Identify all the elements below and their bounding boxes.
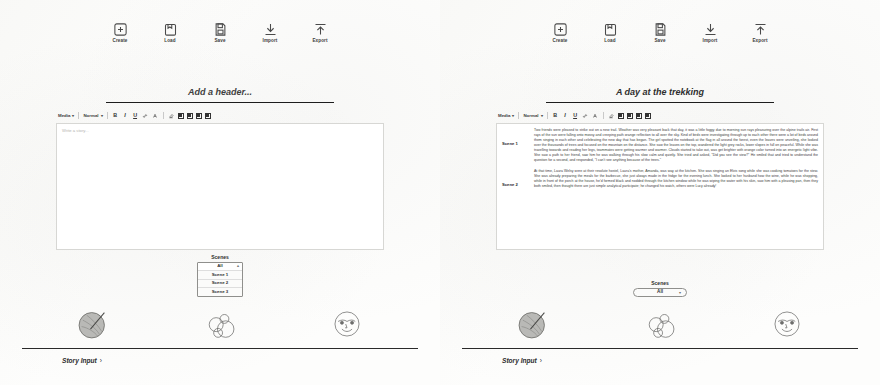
editor-format-toolbar: Media ▾ Normal ▾ B I U xyxy=(56,110,384,121)
scenes-option-scene-2[interactable]: Scene 2 xyxy=(198,280,242,289)
underline-button[interactable]: U xyxy=(572,112,579,119)
bottom-divider xyxy=(22,348,418,349)
avatar-face[interactable] xyxy=(768,305,806,343)
chevron-down-icon: ▾ xyxy=(679,291,681,295)
create-button[interactable]: Create xyxy=(103,22,137,44)
load-button[interactable]: Load xyxy=(593,22,627,44)
character-avatars xyxy=(470,297,850,343)
scenes-dropdown-open[interactable]: All ▴ Scene 1 Scene 2 Scene 3 xyxy=(197,262,243,297)
avatar-face[interactable] xyxy=(328,305,366,343)
text-style-dropdown[interactable]: Normal ▾ xyxy=(523,113,542,118)
header-title-input[interactable]: A day at the trekking xyxy=(492,88,828,102)
import-button[interactable]: Import xyxy=(693,22,727,44)
export-label: Export xyxy=(752,39,767,44)
link-icon[interactable] xyxy=(582,112,589,119)
text-style-label: Normal xyxy=(523,113,538,118)
screen-filled-state: Create Load xyxy=(440,0,880,385)
align-left-icon[interactable] xyxy=(178,113,184,119)
italic-button[interactable]: I xyxy=(562,112,569,119)
align-center-icon[interactable] xyxy=(627,113,633,119)
create-label: Create xyxy=(113,39,128,44)
plus-square-icon xyxy=(113,22,128,37)
chevron-right-icon: › xyxy=(100,358,102,365)
export-arrow-icon xyxy=(313,22,328,37)
align-right-icon[interactable] xyxy=(636,113,642,119)
scene-block: Scene 2 At that time, Laura Welsy were a… xyxy=(502,169,818,189)
folder-open-icon xyxy=(163,22,178,37)
scene-paragraph[interactable]: Two friends were pleased to strike out o… xyxy=(534,128,818,163)
create-button[interactable]: Create xyxy=(543,22,577,44)
divider xyxy=(547,112,548,119)
story-text-placeholder: Write a story... xyxy=(62,128,378,133)
import-button[interactable]: Import xyxy=(253,22,287,44)
load-button[interactable]: Load xyxy=(153,22,187,44)
align-left-icon[interactable] xyxy=(618,113,624,119)
main-toolbar: Create Load xyxy=(440,22,880,44)
load-label: Load xyxy=(604,39,615,44)
scenes-selected-value: All xyxy=(657,290,663,295)
avatar-bubbles[interactable] xyxy=(641,305,679,343)
media-dropdown[interactable]: Media ▾ xyxy=(498,113,514,118)
scene-label: Scene 2 xyxy=(502,169,528,187)
scenes-selector: Scenes All ▴ Scene 1 Scene 2 Scene 3 xyxy=(0,255,440,297)
export-arrow-icon xyxy=(753,22,768,37)
header-underline xyxy=(546,102,774,103)
import-arrow-icon xyxy=(703,22,718,37)
save-button[interactable]: Save xyxy=(643,22,677,44)
save-label: Save xyxy=(654,39,665,44)
story-input-button[interactable]: Story Input › xyxy=(62,358,102,365)
scenes-dropdown-collapsed[interactable]: All ▾ xyxy=(633,288,687,297)
save-button[interactable]: Save xyxy=(203,22,237,44)
story-text-area[interactable]: Scene 1 Two friends were pleased to stri… xyxy=(496,123,824,250)
story-text-area[interactable]: Write a story... xyxy=(56,123,384,250)
avatar-yarn-ball[interactable] xyxy=(74,305,112,343)
load-label: Load xyxy=(164,39,175,44)
highlight-icon[interactable] xyxy=(608,112,615,119)
chevron-down-icon: ▾ xyxy=(72,114,74,118)
divider xyxy=(107,112,108,119)
text-color-icon[interactable] xyxy=(592,112,599,119)
scenes-option-all[interactable]: All ▴ xyxy=(198,263,242,272)
list-icon[interactable] xyxy=(205,113,211,119)
avatar-bubbles[interactable] xyxy=(201,305,239,343)
header-underline xyxy=(106,102,334,103)
italic-button[interactable]: I xyxy=(122,112,129,119)
screen-empty-state: Create Load xyxy=(0,0,440,385)
floppy-disk-icon xyxy=(653,22,668,37)
bottom-divider xyxy=(462,348,858,349)
chevron-down-icon: ▾ xyxy=(101,114,103,118)
avatar-yarn-ball[interactable] xyxy=(514,305,552,343)
create-label: Create xyxy=(553,39,568,44)
align-right-icon[interactable] xyxy=(196,113,202,119)
scenes-option-scene-1[interactable]: Scene 1 xyxy=(198,271,242,280)
scene-paragraph[interactable]: At that time, Laura Welsy were at their … xyxy=(534,169,818,189)
scene-block: Scene 1 Two friends were pleased to stri… xyxy=(502,128,818,163)
scenes-option-scene-3[interactable]: Scene 3 xyxy=(198,288,242,296)
editor-format-toolbar: Media ▾ Normal ▾ B I U xyxy=(496,110,824,121)
story-header: Add a header... xyxy=(52,88,388,103)
divider xyxy=(163,112,164,119)
chevron-down-icon: ▾ xyxy=(541,114,543,118)
highlight-icon[interactable] xyxy=(168,112,175,119)
import-arrow-icon xyxy=(263,22,278,37)
align-center-icon[interactable] xyxy=(187,113,193,119)
header-title-input[interactable]: Add a header... xyxy=(52,88,388,102)
export-button[interactable]: Export xyxy=(743,22,777,44)
media-dropdown[interactable]: Media ▾ xyxy=(58,113,74,118)
text-style-dropdown[interactable]: Normal ▾ xyxy=(83,113,102,118)
story-header: A day at the trekking xyxy=(492,88,828,103)
scenes-option-label: All xyxy=(217,263,223,268)
folder-open-icon xyxy=(603,22,618,37)
story-input-button[interactable]: Story Input › xyxy=(502,358,542,365)
media-dropdown-label: Media xyxy=(498,113,510,118)
plus-square-icon xyxy=(553,22,568,37)
link-icon[interactable] xyxy=(142,112,149,119)
text-color-icon[interactable] xyxy=(152,112,159,119)
scenes-label: Scenes xyxy=(651,281,669,286)
bold-button[interactable]: B xyxy=(552,112,559,119)
list-icon[interactable] xyxy=(645,113,651,119)
comparison-screens: Create Load xyxy=(0,0,880,385)
export-button[interactable]: Export xyxy=(303,22,337,44)
underline-button[interactable]: U xyxy=(132,112,139,119)
bold-button[interactable]: B xyxy=(112,112,119,119)
